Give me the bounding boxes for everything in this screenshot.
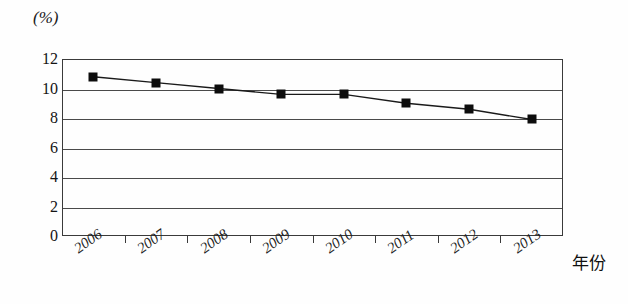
gridline [63, 119, 562, 120]
gridline [63, 149, 562, 150]
x-axis-tick-mark [438, 236, 439, 243]
y-axis-tick-label: 2 [16, 198, 62, 216]
x-axis-tick-mark [375, 236, 376, 243]
y-axis-tick-label: 4 [16, 168, 62, 186]
y-axis-tick-label: 8 [16, 109, 62, 127]
x-axis-tick-mark [187, 236, 188, 243]
x-axis-tick-mark [500, 236, 501, 243]
chart-figure: (%) 024681012 20062007200820092010201120… [0, 0, 628, 304]
data-point-marker [465, 105, 474, 114]
x-axis-title: 年份 [572, 249, 606, 274]
data-point-marker [527, 115, 536, 124]
data-point-marker [402, 99, 411, 108]
y-axis-tick-label: 12 [16, 50, 62, 68]
gridline [63, 208, 562, 209]
data-point-marker [339, 90, 348, 99]
x-axis-tick-mark [125, 236, 126, 243]
data-point-marker [151, 78, 160, 87]
data-point-marker [214, 84, 223, 93]
x-axis-tick-mark [250, 236, 251, 243]
gridline [63, 178, 562, 179]
data-point-marker [277, 90, 286, 99]
gridline [63, 90, 562, 91]
plot-area [62, 59, 563, 236]
data-point-marker [89, 72, 98, 81]
y-axis-tick-label: 10 [16, 80, 62, 98]
y-axis-tick-labels: 024681012 [8, 0, 62, 304]
x-axis-tick-mark [313, 236, 314, 243]
y-axis-tick-label: 6 [16, 139, 62, 157]
y-axis-tick-label: 0 [16, 227, 62, 245]
